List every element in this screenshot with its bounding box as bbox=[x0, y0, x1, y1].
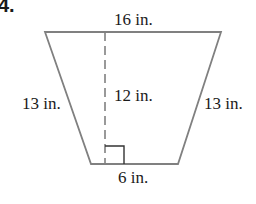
right-leg-label: 13 in. bbox=[204, 94, 243, 113]
problem-number: 4. bbox=[0, 0, 15, 17]
left-leg-label: 13 in. bbox=[22, 94, 61, 113]
trapezoid-figure: 4. 16 in. 12 in. 13 in. 13 in. 6 in. bbox=[0, 0, 256, 204]
height-label: 12 in. bbox=[114, 86, 153, 105]
top-base-label: 16 in. bbox=[114, 10, 153, 29]
right-angle-marker bbox=[105, 146, 124, 164]
trapezoid-diagram: 16 in. 12 in. 13 in. 13 in. 6 in. bbox=[0, 0, 256, 204]
bottom-base-label: 6 in. bbox=[118, 168, 148, 187]
